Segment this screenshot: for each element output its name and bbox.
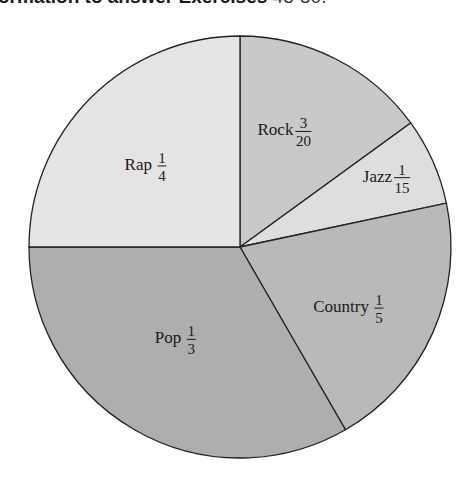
svg-text:Rap: Rap bbox=[125, 155, 152, 174]
svg-text:1: 1 bbox=[158, 150, 166, 166]
svg-text:15: 15 bbox=[395, 180, 410, 196]
svg-text:5: 5 bbox=[375, 310, 383, 326]
svg-text:Jazz: Jazz bbox=[363, 167, 393, 186]
svg-text:1: 1 bbox=[187, 323, 195, 339]
svg-text:4: 4 bbox=[158, 168, 166, 184]
svg-text:1: 1 bbox=[398, 162, 406, 178]
svg-text:Country: Country bbox=[313, 297, 369, 316]
svg-text:1: 1 bbox=[375, 292, 383, 308]
svg-text:Pop: Pop bbox=[155, 328, 181, 347]
svg-text:Rock: Rock bbox=[258, 120, 294, 139]
pie-chart: Rock320Jazz115Country15Pop13Rap14 bbox=[0, 0, 470, 484]
svg-text:3: 3 bbox=[187, 341, 195, 357]
svg-text:3: 3 bbox=[300, 115, 308, 131]
svg-text:20: 20 bbox=[296, 133, 311, 149]
pie-slice-rap bbox=[29, 36, 240, 247]
